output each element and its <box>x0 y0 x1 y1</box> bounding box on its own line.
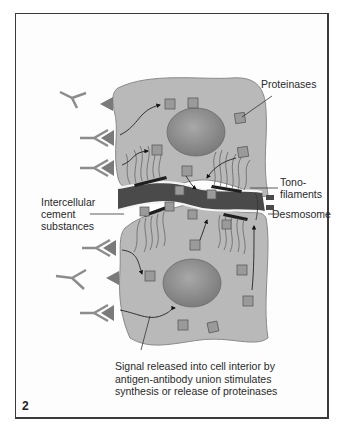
caption-line-3: synthesis or release of proteinases <box>115 385 277 398</box>
label-desmosome: Desmosome <box>272 208 331 220</box>
caption: Signal released into cell interior by an… <box>115 360 277 398</box>
upper-nucleus <box>167 108 225 156</box>
label-tonofilaments-1: Tono- <box>280 176 306 188</box>
label-intercellular-2: cement <box>41 208 75 220</box>
label-tonofilaments-2: filaments <box>280 188 322 200</box>
caption-line-1: Signal released into cell interior by <box>115 360 277 373</box>
antigen-antibody-lower <box>56 240 119 321</box>
label-intercellular-3: substances <box>41 220 94 232</box>
label-proteinases: Proteinases <box>261 78 316 90</box>
figure-number: 2 <box>22 399 29 413</box>
label-intercellular-1: Intercellular <box>41 196 95 208</box>
lower-nucleus <box>163 259 221 307</box>
antigen-antibody-upper <box>60 92 114 176</box>
caption-line-2: antigen-antibody union stimulates <box>115 373 277 386</box>
